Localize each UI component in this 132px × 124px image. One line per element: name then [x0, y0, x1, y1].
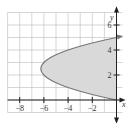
x-tick-label: −8	[15, 104, 24, 113]
curve-arrow-icon	[117, 34, 124, 39]
y-tick-label: 4	[108, 46, 112, 55]
y-axis-label: y	[109, 13, 114, 22]
y-tick-label: 2	[108, 71, 112, 80]
y-axis-arrow-down-icon	[114, 118, 119, 124]
x-axis-label: x	[121, 100, 126, 109]
x-tick-label: −4	[64, 104, 73, 113]
y-axis-arrow-up-icon	[114, 6, 119, 12]
chart: −8−6−4−2246 y x	[0, 0, 132, 123]
y-tick-label: 6	[108, 21, 112, 30]
x-tick-label: −6	[40, 104, 49, 113]
x-tick-label: −2	[88, 104, 97, 113]
